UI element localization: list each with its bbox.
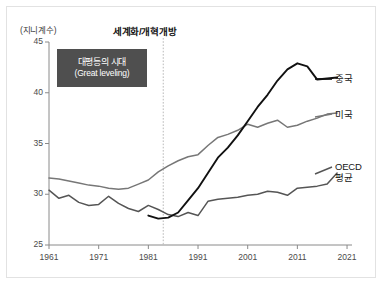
y-tick-label: 25 [23,239,43,249]
y-axis-unit-label: (지니계수) [20,23,56,35]
globalization-event-title: 세계화/개혁개방 [113,24,176,38]
series-label-oecd-line1: OECD [335,161,362,172]
leader-line-oecd [315,167,332,174]
series-label-china: 중국 [335,73,353,84]
x-tick-label: 2001 [232,252,264,262]
callout-line-1: 대평등의 시대 [78,57,126,68]
series-label-oecd: OECD 평균 [335,161,362,184]
x-tick-label: 2011 [281,252,313,262]
x-tick-label: 1971 [83,252,115,262]
chart-figure: (지니계수) 세계화/개혁개방 대평등의 시대 (Great leveling)… [0,0,382,284]
y-axis-ticks [45,42,49,245]
series-line-china [148,63,337,218]
series-label-oecd-line2: 평균 [335,172,353,183]
series-line-usa [49,113,337,189]
chart-plot-area [0,0,382,284]
great-leveling-callout: 대평등의 시대 (Great leveling) [57,49,147,87]
x-tick-label: 2021 [331,252,363,262]
callout-line-2: (Great leveling) [75,68,130,79]
y-tick-label: 45 [23,36,43,46]
y-tick-label: 35 [23,138,43,148]
x-tick-label: 1981 [132,252,164,262]
x-tick-label: 1961 [33,252,65,262]
x-axis-ticks [49,245,347,249]
series-label-usa: 미국 [335,109,353,120]
x-tick-label: 1991 [182,252,214,262]
leader-line-usa [315,114,332,117]
y-tick-label: 40 [23,87,43,97]
y-tick-label: 30 [23,188,43,198]
